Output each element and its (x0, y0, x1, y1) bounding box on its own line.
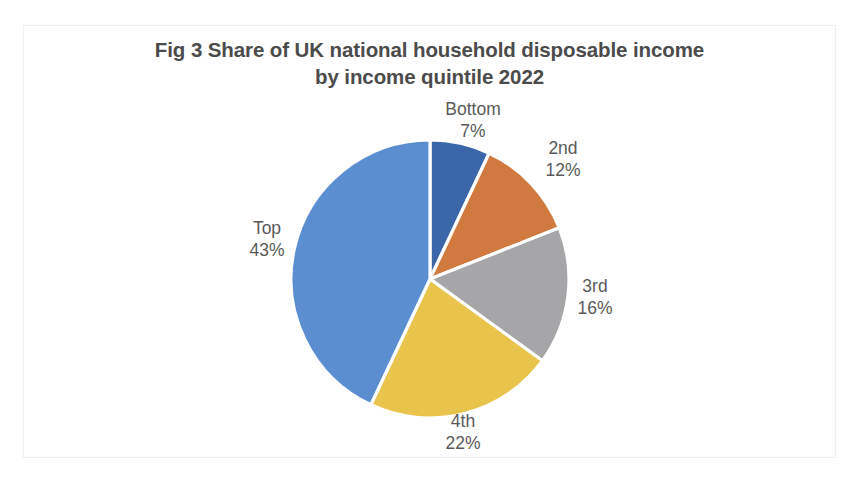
pie-chart (0, 0, 859, 479)
pie-chart-svg (0, 0, 859, 479)
slice-label-3rd-value: 16% (550, 297, 640, 319)
slice-label-bottom-name: Bottom (418, 98, 528, 120)
figure-container: Fig 3 Share of UK national household dis… (0, 0, 859, 479)
slice-label-bottom-value: 7% (418, 120, 528, 142)
slice-label-2nd-name: 2nd (518, 137, 608, 159)
slice-label-bottom: Bottom 7% (418, 98, 528, 142)
slice-label-2nd: 2nd 12% (518, 137, 608, 181)
slice-label-top: Top 43% (222, 217, 312, 261)
slice-label-4th: 4th 22% (418, 410, 508, 454)
slice-label-top-name: Top (222, 217, 312, 239)
pie-slice-group (291, 140, 569, 418)
slice-label-3rd-name: 3rd (550, 275, 640, 297)
slice-label-2nd-value: 12% (518, 159, 608, 181)
slice-label-4th-name: 4th (418, 410, 508, 432)
slice-label-4th-value: 22% (418, 432, 508, 454)
slice-label-top-value: 43% (222, 239, 312, 261)
slice-label-3rd: 3rd 16% (550, 275, 640, 319)
